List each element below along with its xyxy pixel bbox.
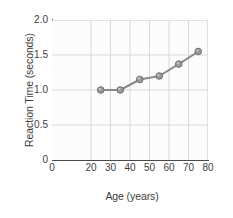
marker-highlight <box>118 88 120 90</box>
x-axis-tick-label: 0 <box>40 163 64 173</box>
marker-highlight <box>157 74 159 76</box>
data-point-marker <box>136 76 143 83</box>
marker-highlight <box>99 88 101 90</box>
data-point-marker <box>195 48 202 55</box>
data-point-marker <box>117 87 124 94</box>
x-axis-line <box>52 160 209 161</box>
marker-highlight <box>196 49 198 51</box>
marker-highlight <box>177 62 179 64</box>
marker-highlight <box>138 77 140 79</box>
data-point-marker <box>156 73 163 80</box>
data-point-marker <box>175 61 182 68</box>
plot-canvas <box>52 20 208 160</box>
reaction-time-line-chart: Reaction Time (seconds) 00.51.01.52.0 02… <box>0 0 233 218</box>
plot-area <box>52 20 208 160</box>
data-point-marker <box>97 87 104 94</box>
x-axis-tick-label: 80 <box>196 163 220 173</box>
x-axis-title: Age (years) <box>52 190 212 202</box>
